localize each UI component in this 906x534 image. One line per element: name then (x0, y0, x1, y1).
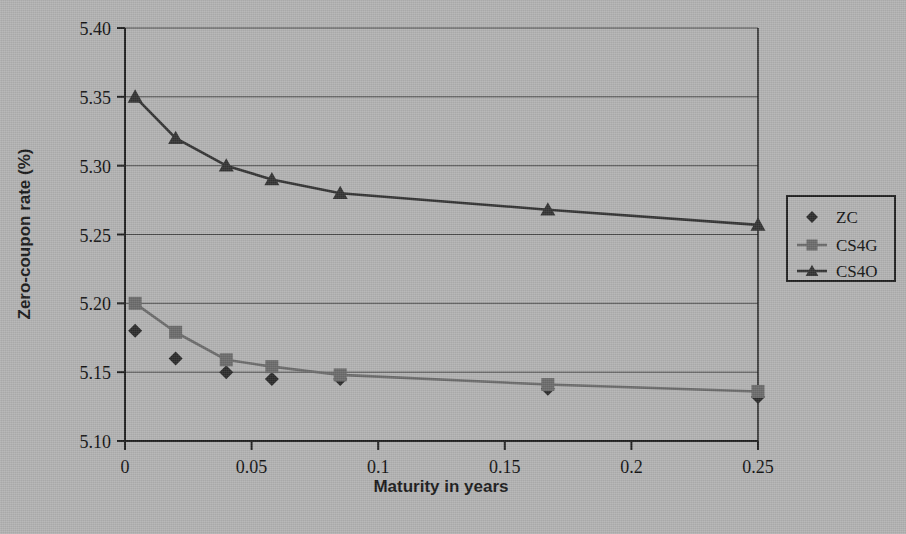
y-axis-ticks (117, 28, 125, 441)
x-axis-ticks (125, 441, 758, 450)
y-axis-tick-labels: 5.105.155.205.255.305.355.40 (80, 19, 112, 452)
x-tick-label: 0.15 (489, 457, 521, 477)
y-tick-label: 5.40 (80, 19, 112, 39)
data-point-cs4g (265, 360, 278, 373)
y-tick-label: 5.15 (80, 363, 112, 383)
legend-label-zc: ZC (836, 208, 858, 227)
x-axis-tick-labels: 00.050.10.150.20.25 (121, 457, 774, 477)
y-tick-label: 5.10 (80, 432, 112, 452)
legend: ZCCS4GCS4O (787, 196, 895, 281)
x-tick-label: 0 (121, 457, 130, 477)
x-tick-label: 0.1 (367, 457, 390, 477)
x-tick-label: 0.05 (236, 457, 268, 477)
data-point-cs4g (752, 385, 765, 398)
legend-marker-cs4g (806, 239, 817, 250)
data-point-cs4g (334, 368, 347, 381)
y-tick-label: 5.30 (80, 157, 112, 177)
data-point-cs4g (129, 297, 142, 310)
x-axis-title: Maturity in years (373, 477, 508, 496)
x-tick-label: 0.2 (620, 457, 643, 477)
data-point-cs4g (541, 378, 554, 391)
data-point-cs4g (169, 326, 182, 339)
y-axis-title: Zero-coupon rate (%) (15, 149, 34, 320)
legend-label-cs4o: CS4O (836, 262, 878, 281)
x-tick-label: 0.25 (742, 457, 774, 477)
y-tick-label: 5.35 (80, 88, 112, 108)
data-point-cs4g (220, 353, 233, 366)
y-tick-label: 5.20 (80, 294, 112, 314)
legend-label-cs4g: CS4G (836, 236, 878, 255)
y-tick-label: 5.25 (80, 226, 112, 246)
chart-page: 5.105.155.205.255.305.355.40 00.050.10.1… (0, 0, 906, 534)
zero-coupon-rate-chart: 5.105.155.205.255.305.355.40 00.050.10.1… (0, 0, 906, 534)
